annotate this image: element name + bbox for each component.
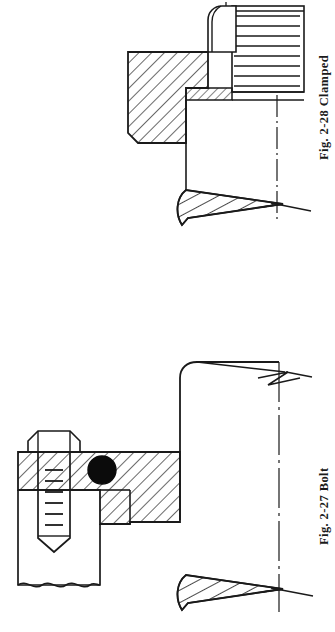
technical-drawing-canvas xyxy=(0,0,335,632)
drawing-sheet: Fig. 2-28 Clamped Fig. 2-27 Bolt xyxy=(0,0,335,632)
figure-caption-clamped: Fig. 2-28 Clamped xyxy=(317,55,332,160)
figure-bolt-assembly xyxy=(18,362,313,618)
figure-clamped-assembly xyxy=(128,2,311,233)
zigzag-break-line xyxy=(258,372,312,385)
rounded-nut-clamped xyxy=(208,2,236,52)
rounded-body-bolt xyxy=(180,362,285,520)
tapered-shaft-end-clamped xyxy=(170,185,311,233)
hex-bolt-head xyxy=(28,431,80,452)
threaded-stud-clamped xyxy=(232,6,304,92)
o-ring-seal xyxy=(88,456,116,484)
figure-caption-bolt: Fig. 2-27 Bolt xyxy=(317,468,332,545)
washer-strip-clamped xyxy=(186,88,232,100)
tapered-shaft-end-bolt xyxy=(170,570,313,618)
shaft-outline-clamped xyxy=(186,92,304,196)
